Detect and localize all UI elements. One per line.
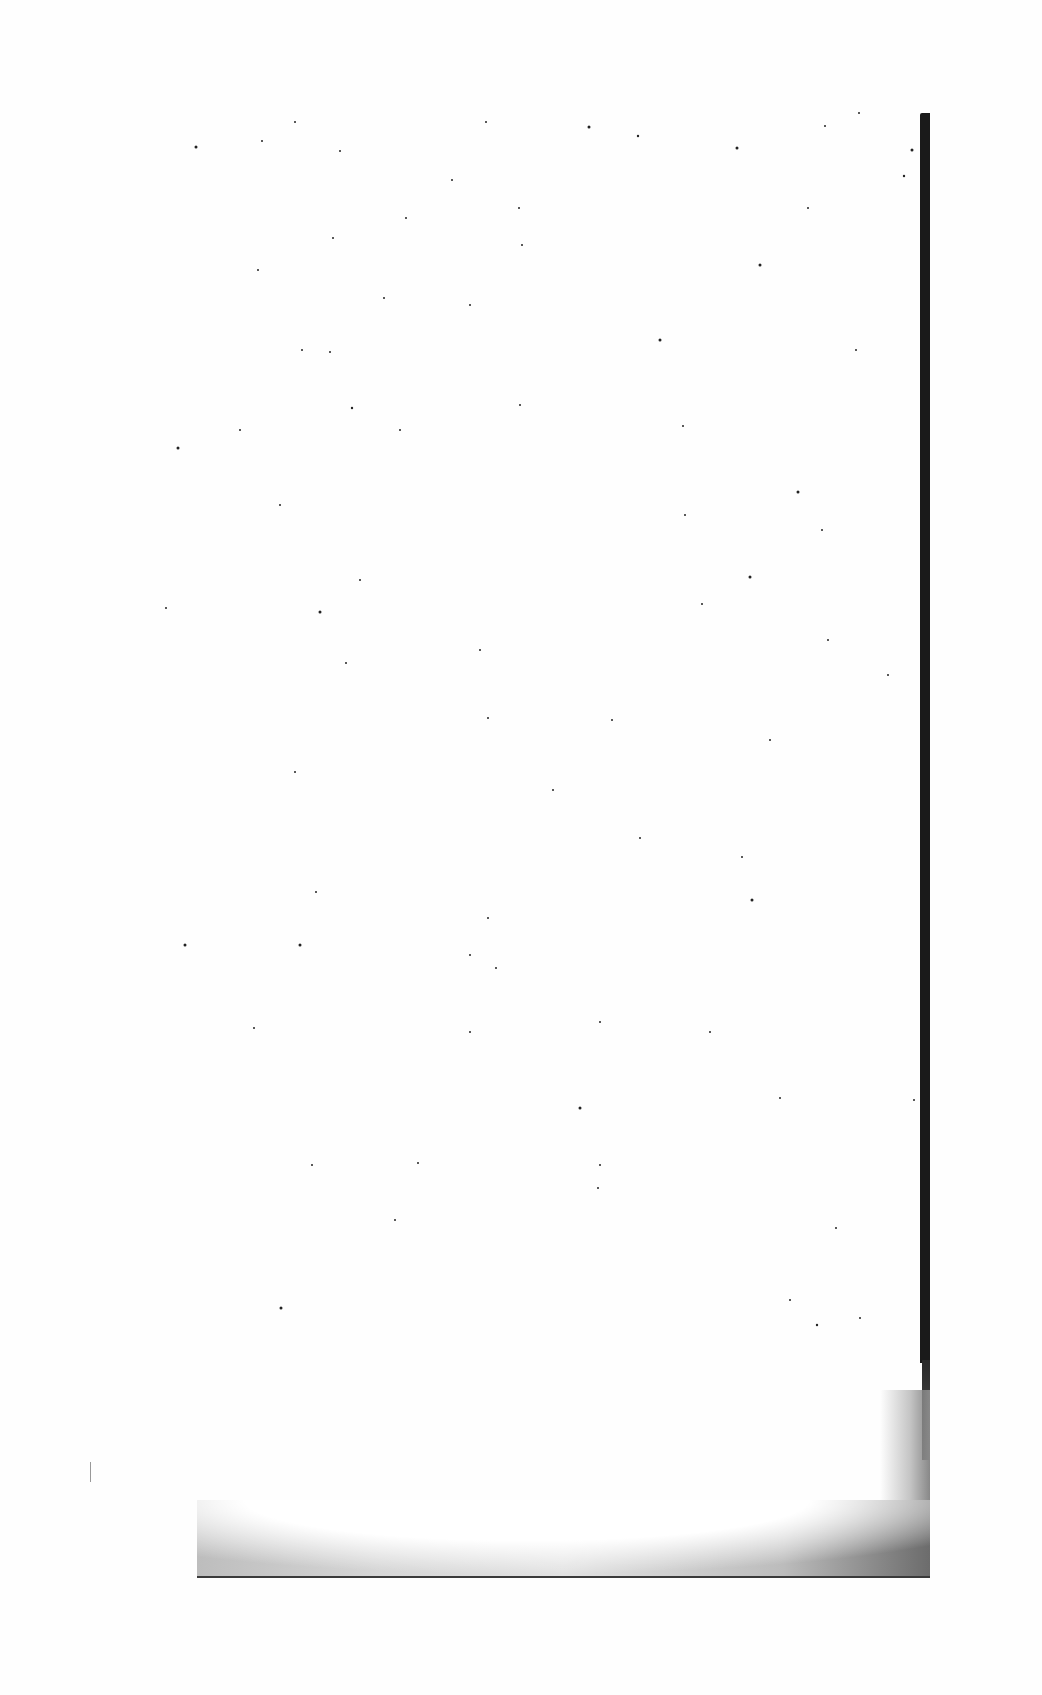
scanned-page <box>0 0 1042 1695</box>
scan-speckles <box>0 0 1042 1695</box>
